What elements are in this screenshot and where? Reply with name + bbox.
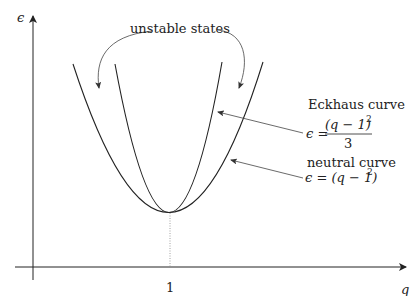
unstable-states-label: unstable states — [130, 21, 230, 36]
unstable-arrow-right — [218, 30, 244, 88]
neutral-title: neutral curve — [307, 155, 396, 170]
neutral-curve — [73, 62, 263, 213]
stability-diagram: ϵ q 1 unstable states Eckhaus curve ϵ = … — [0, 0, 420, 296]
eckhaus-numerator: (q − 1) — [325, 117, 371, 132]
eckhaus-title: Eckhaus curve — [308, 97, 405, 112]
eckhaus-pointer — [218, 112, 303, 133]
neutral-exponent: 2 — [367, 167, 373, 177]
y-axis-label: ϵ — [17, 10, 25, 25]
unstable-arrow-left — [98, 31, 152, 88]
eckhaus-denominator: 3 — [344, 136, 352, 151]
eckhaus-exponent: 2 — [366, 114, 372, 124]
x-axis-label: q — [401, 282, 409, 296]
neutral-pointer — [231, 160, 303, 178]
x-tick-1: 1 — [166, 280, 174, 295]
